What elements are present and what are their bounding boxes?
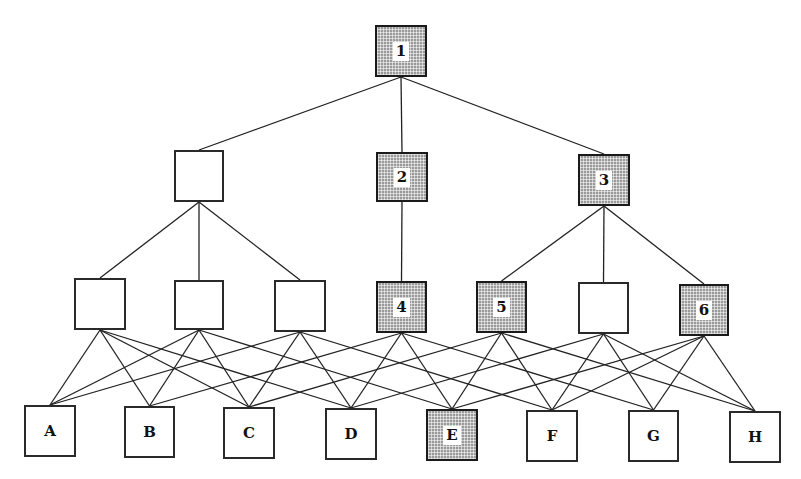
node-label: E (443, 426, 460, 445)
edge-m0-l0 (100, 202, 199, 278)
edge-l0-A (50, 330, 100, 405)
node-label: G (644, 427, 663, 446)
node-n4-shaded: 4 (376, 281, 427, 333)
node-label: 3 (596, 171, 612, 190)
edge-n4-B (150, 333, 402, 406)
edge-n6-G (654, 336, 705, 410)
node-n6-shaded: 6 (679, 284, 729, 336)
edge-n5-F (502, 333, 553, 410)
edge-n5-C (249, 333, 502, 407)
edge-n4-E (402, 333, 453, 409)
node-label: 4 (393, 298, 409, 317)
node-l0 (74, 278, 126, 330)
node-n2-shaded: 2 (376, 152, 428, 202)
node-label: 2 (394, 168, 410, 187)
node-B: B (124, 406, 175, 458)
hierarchy-diagram: 123456ABCDEFGH (0, 0, 801, 479)
node-l5 (578, 282, 629, 334)
node-l1 (174, 280, 224, 330)
node-label: 1 (393, 42, 409, 61)
node-l2 (274, 280, 326, 332)
node-label: A (41, 422, 59, 441)
node-H: H (729, 411, 781, 463)
node-label: B (140, 423, 159, 442)
edge-l5-D (351, 334, 604, 408)
edge-n2-n4 (402, 202, 403, 281)
node-D: D (325, 408, 377, 460)
node-n5-shaded: 5 (476, 281, 527, 333)
edge-n3-n5 (502, 206, 605, 281)
node-G: G (628, 410, 679, 462)
node-n1-shaded: 1 (375, 25, 427, 77)
node-C: C (223, 407, 275, 459)
edge-n3-l5 (604, 206, 605, 282)
edge-n4-D (351, 333, 402, 408)
edge-l2-A (50, 332, 300, 405)
edge-l0-D (100, 330, 351, 408)
edge-n1-m0 (199, 77, 401, 150)
node-E-shaded: E (426, 409, 478, 461)
edge-n1-n3 (401, 77, 604, 154)
node-label: H (745, 428, 765, 447)
edge-l5-G (604, 334, 654, 410)
edge-n1-n2 (401, 77, 402, 152)
edge-l2-D (300, 332, 351, 408)
edge-l1-C (199, 330, 249, 407)
edge-n6-H (704, 336, 755, 411)
node-A: A (24, 405, 76, 457)
edge-n3-n6 (604, 206, 704, 284)
node-label: 6 (696, 301, 712, 320)
edge-m0-l2 (199, 202, 300, 280)
node-F: F (526, 410, 578, 462)
node-label: C (240, 424, 258, 443)
node-label: D (341, 425, 360, 444)
node-n3-shaded: 3 (578, 154, 630, 206)
node-label: F (544, 427, 561, 446)
node-m0 (174, 150, 224, 202)
node-label: 5 (493, 298, 509, 317)
edge-l1-B (150, 330, 200, 406)
